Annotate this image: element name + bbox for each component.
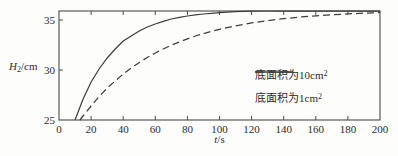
legend: 底面积为10cm2 底面积为1cm2 bbox=[255, 66, 385, 112]
x-axis-label: t/s bbox=[59, 133, 380, 146]
legend-item-superscript: 2 bbox=[318, 92, 322, 101]
legend-item-text: 底面积为1cm bbox=[255, 92, 318, 104]
legend-solid-line-icon bbox=[255, 66, 293, 78]
chart-figure: H2/cm 253035 020406080100120140160180200… bbox=[0, 0, 398, 156]
x-axis-label-unit: /s bbox=[217, 133, 224, 145]
legend-item-superscript: 2 bbox=[323, 69, 327, 78]
y-tick-label: 35 bbox=[33, 14, 55, 26]
y-tick-label: 30 bbox=[33, 64, 55, 76]
legend-item-label: 底面积为1cm2 bbox=[255, 90, 322, 105]
legend-item: 底面积为1cm2 bbox=[255, 89, 385, 105]
y-axis-label-symbol: H bbox=[9, 60, 17, 72]
